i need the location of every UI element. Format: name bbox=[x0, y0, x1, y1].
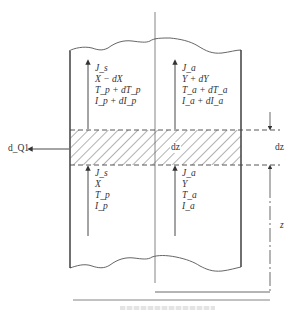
upper-right-label-0: J_a bbox=[182, 63, 227, 74]
lower-right-label-0: J_a bbox=[182, 168, 197, 179]
upper-left-label-0: J_s bbox=[95, 63, 140, 74]
upper-left-label-3: I_p + dI_p bbox=[95, 96, 140, 107]
lower-left-label-stack: J_s X T_p I_p bbox=[95, 168, 110, 212]
upper-right-label-2: T_a + dT_a bbox=[182, 85, 227, 96]
upper-right-label-3: I_a + dI_a bbox=[182, 96, 227, 107]
bottom-break-line bbox=[70, 256, 241, 272]
lower-right-label-3: I_a bbox=[182, 201, 197, 212]
dz-dimension-label: dz bbox=[275, 142, 284, 153]
lower-right-label-1: Y bbox=[182, 179, 197, 190]
lower-left-label-1: X bbox=[95, 179, 110, 190]
upper-left-label-1: X − dX bbox=[95, 74, 140, 85]
lower-left-label-0: J_s bbox=[95, 168, 110, 179]
upper-left-label-stack: J_s X − dX T_p + dT_p I_p + dI_p bbox=[95, 63, 140, 107]
lower-left-label-2: T_p bbox=[95, 190, 110, 201]
upper-right-label-stack: J_a Y + dY T_a + dT_a I_a + dI_a bbox=[182, 63, 227, 107]
lower-right-label-stack: J_a Y T_a I_a bbox=[182, 168, 197, 212]
upper-right-label-1: Y + dY bbox=[182, 74, 227, 85]
figure-caption-illegible bbox=[120, 306, 215, 310]
lower-right-label-2: T_a bbox=[182, 190, 197, 201]
differential-element-hatched bbox=[70, 130, 241, 165]
element-dz-label: dz bbox=[170, 142, 181, 153]
lower-left-label-3: I_p bbox=[95, 201, 110, 212]
column-diagram bbox=[0, 0, 295, 314]
heat-loss-label: d_Q1 bbox=[8, 143, 29, 154]
z-dimension-label: z bbox=[280, 220, 284, 231]
upper-left-label-2: T_p + dT_p bbox=[95, 85, 140, 96]
